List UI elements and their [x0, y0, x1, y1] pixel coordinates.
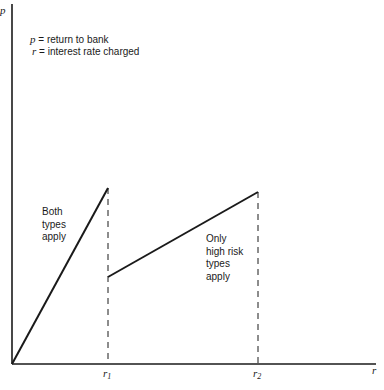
- region-label-both-types: Both types apply: [42, 206, 66, 244]
- return-vs-interest-diagram: [0, 0, 384, 390]
- region-both-line-3: apply: [42, 231, 66, 244]
- r2-subscript: 2: [257, 372, 261, 381]
- region-high-line-1: Only: [206, 233, 243, 246]
- region-high-line-4: apply: [206, 271, 243, 284]
- region-both-line-1: Both: [42, 206, 66, 219]
- tick-label-r1: r1: [103, 367, 111, 383]
- legend-text-p: = return to bank: [36, 34, 109, 45]
- y-axis-label: p: [0, 4, 6, 16]
- region-both-line-2: types: [42, 219, 66, 232]
- region-high-line-3: types: [206, 258, 243, 271]
- x-axis-label: r: [372, 364, 376, 376]
- legend-text-r: = interest rate charged: [36, 46, 139, 57]
- tick-label-r2: r2: [253, 367, 261, 383]
- region-label-high-risk: Only high risk types apply: [206, 233, 243, 283]
- region-high-line-2: high risk: [206, 246, 243, 259]
- r1-subscript: 1: [107, 372, 111, 381]
- legend-line-2: r = interest rate charged: [32, 45, 139, 58]
